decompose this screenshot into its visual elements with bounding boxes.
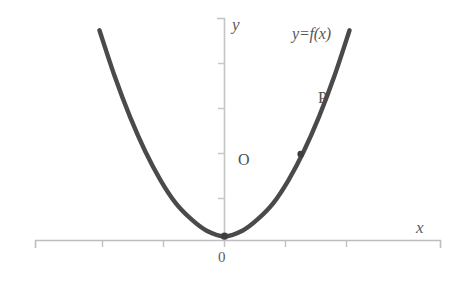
x-axis-ticks [103, 241, 347, 248]
graph-canvas [0, 0, 467, 282]
y-axis-ticks [218, 64, 225, 199]
curve-function-label: y=f(x) [292, 26, 331, 42]
x-axis-origin-tick-label: 0 [218, 250, 226, 265]
point-o-label: O [238, 152, 250, 168]
vertex-point-marker [221, 233, 228, 240]
point-p-marker [297, 151, 304, 158]
point-p-label: P [318, 90, 327, 106]
y-axis-label: y [232, 16, 240, 33]
x-axis-label: x [416, 219, 424, 236]
figure-container: y x y=f(x) P O 0 [0, 0, 467, 282]
